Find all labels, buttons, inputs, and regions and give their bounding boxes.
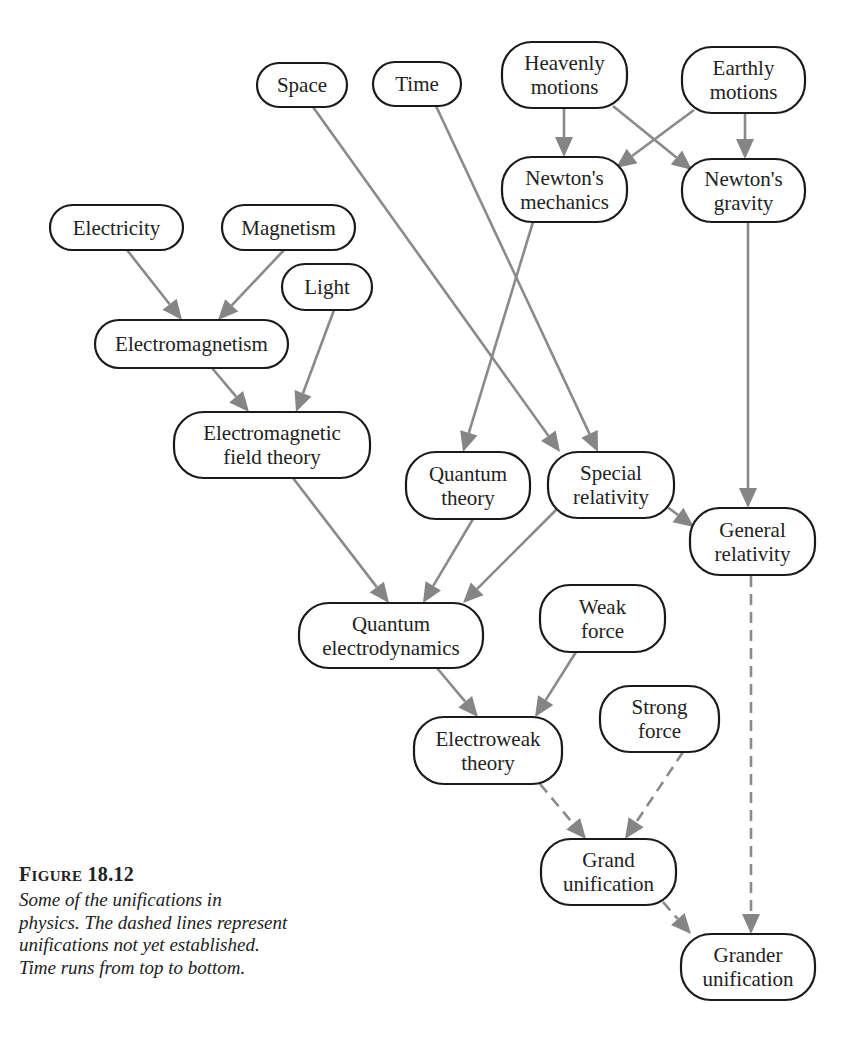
node-label: Light bbox=[304, 275, 350, 299]
edge-line bbox=[636, 752, 683, 822]
arrowhead-icon bbox=[229, 391, 249, 412]
node-label: force bbox=[638, 719, 681, 743]
node-label: General bbox=[719, 518, 786, 542]
node-label: Special bbox=[580, 461, 642, 485]
edge-electroweak-to-grand bbox=[540, 784, 586, 839]
nodes-layer: SpaceTimeHeavenlymotionsEarthlymotionsNe… bbox=[50, 42, 815, 1000]
node-special_rel: Specialrelativity bbox=[548, 452, 674, 518]
node-label: Space bbox=[277, 73, 327, 97]
figure-label: FIGURE 18.12 bbox=[19, 861, 299, 889]
node-electricity: Electricity bbox=[50, 205, 183, 250]
figure-caption: FIGURE 18.12 Some of the unifications in… bbox=[19, 861, 299, 979]
node-strong: Strongforce bbox=[600, 686, 719, 752]
arrowhead-icon bbox=[616, 149, 637, 168]
node-newton_mech: Newton'smechanics bbox=[502, 157, 627, 222]
edge-light-to-em_field bbox=[295, 310, 334, 412]
node-heavenly: Heavenlymotions bbox=[502, 42, 627, 108]
node-label: Grander bbox=[714, 943, 783, 967]
edge-line bbox=[632, 110, 694, 156]
node-label: force bbox=[581, 619, 624, 643]
caption-line: Time runs from top to bottom. bbox=[19, 957, 299, 980]
node-earthly: Earthlymotions bbox=[682, 47, 805, 113]
node-label: unification bbox=[563, 872, 654, 896]
arrowhead-icon bbox=[535, 695, 553, 717]
node-label: theory bbox=[441, 486, 495, 510]
arrowhead-icon bbox=[423, 581, 441, 603]
node-electromagnetism: Electromagnetism bbox=[95, 320, 288, 368]
node-label: Weak bbox=[579, 595, 627, 619]
edge-newton_grav-to-general_rel bbox=[739, 222, 757, 508]
edge-line bbox=[437, 668, 465, 702]
arrowhead-icon bbox=[295, 390, 312, 412]
edge-em_field-to-qed bbox=[293, 478, 389, 603]
node-label: mechanics bbox=[520, 190, 609, 214]
arrowhead-icon bbox=[458, 696, 478, 717]
node-label: field theory bbox=[223, 445, 321, 469]
edge-grand-to-grander bbox=[663, 902, 691, 934]
node-qed: Quantumelectrodynamics bbox=[299, 603, 483, 668]
node-label: Strong bbox=[631, 695, 688, 719]
edge-earthly-to-newton_grav bbox=[736, 113, 754, 159]
edge-line bbox=[303, 310, 334, 393]
arrowhead-icon bbox=[739, 488, 757, 508]
caption-line: Some of the unifications in bbox=[19, 889, 299, 912]
edge-quantum_theory-to-qed bbox=[423, 519, 473, 603]
edge-line bbox=[663, 902, 678, 919]
edge-line bbox=[232, 250, 284, 305]
edge-general_rel-to-grander bbox=[742, 576, 760, 934]
edge-electromagnetism-to-em_field bbox=[212, 368, 249, 412]
node-label: Earthly bbox=[713, 56, 775, 80]
edge-line bbox=[212, 368, 236, 397]
node-label: motions bbox=[531, 75, 599, 99]
figure-label-smallcaps: IGURE bbox=[32, 868, 83, 884]
node-label: motions bbox=[710, 80, 778, 104]
edge-electricity-to-electromagnetism bbox=[127, 250, 182, 320]
edge-special_rel-to-general_rel bbox=[666, 506, 694, 527]
arrowhead-icon bbox=[566, 818, 586, 839]
node-newton_grav: Newton'sgravity bbox=[682, 159, 805, 222]
node-label: Grand bbox=[582, 848, 635, 872]
arrowhead-icon bbox=[625, 817, 644, 839]
node-space: Space bbox=[257, 63, 347, 107]
caption-line: physics. The dashed lines represent bbox=[19, 912, 299, 935]
arrowhead-icon bbox=[163, 299, 182, 320]
node-light: Light bbox=[282, 264, 372, 310]
node-label: Time bbox=[395, 72, 439, 96]
arrowhead-icon bbox=[742, 914, 760, 934]
edge-heavenly-to-newton_mech bbox=[555, 108, 573, 157]
node-label: Quantum bbox=[352, 612, 430, 636]
edge-newton_mech-to-quantum_theory bbox=[460, 222, 533, 452]
node-label: gravity bbox=[714, 191, 774, 215]
node-label: Heavenly bbox=[524, 51, 605, 75]
node-time: Time bbox=[373, 62, 461, 106]
node-label: Quantum bbox=[429, 462, 507, 486]
arrowhead-icon bbox=[555, 137, 573, 157]
arrowhead-icon bbox=[541, 430, 560, 452]
node-weak: Weakforce bbox=[540, 585, 665, 652]
node-label: unification bbox=[703, 967, 794, 991]
node-general_rel: Generalrelativity bbox=[690, 508, 815, 575]
node-label: Electromagnetism bbox=[115, 332, 268, 356]
arrowhead-icon bbox=[671, 913, 691, 934]
edge-weak-to-electroweak bbox=[535, 652, 576, 717]
node-grand: Grandunification bbox=[541, 839, 676, 905]
edge-line bbox=[540, 784, 573, 824]
node-em_field: Electromagneticfield theory bbox=[174, 412, 370, 478]
edge-line bbox=[293, 478, 377, 587]
node-label: relativity bbox=[573, 485, 649, 509]
node-electroweak: Electroweaktheory bbox=[414, 717, 562, 784]
figure-label-prefix: F bbox=[19, 863, 32, 885]
edge-qed-to-electroweak bbox=[437, 668, 478, 717]
arrowhead-icon bbox=[370, 582, 389, 603]
arrowhead-icon bbox=[673, 508, 694, 527]
edge-line bbox=[433, 519, 473, 586]
edge-line bbox=[477, 510, 556, 589]
node-label: Electromagnetic bbox=[203, 421, 341, 445]
node-label: Magnetism bbox=[241, 216, 336, 240]
node-label: electrodynamics bbox=[322, 636, 460, 660]
node-grander: Granderunification bbox=[681, 934, 815, 1000]
edge-line bbox=[127, 250, 170, 304]
node-label: theory bbox=[461, 751, 515, 775]
arrowhead-icon bbox=[460, 430, 477, 452]
edge-line bbox=[546, 652, 576, 700]
